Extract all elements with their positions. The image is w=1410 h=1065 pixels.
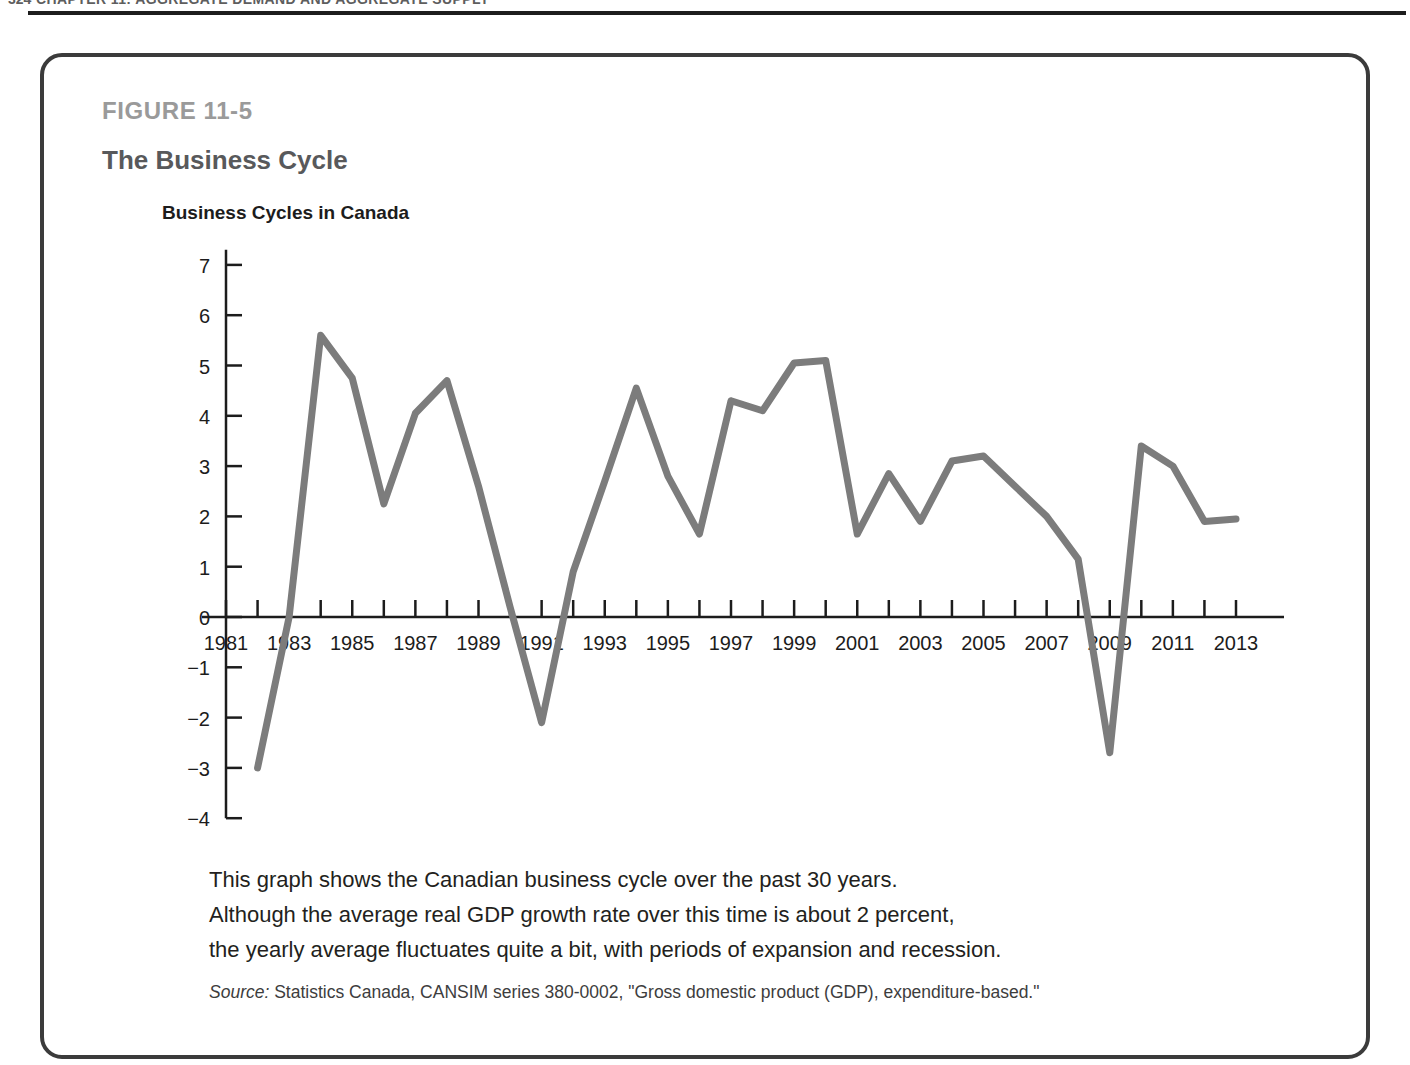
y-tick-label: 2 [199, 506, 210, 528]
x-tick-label: 1995 [646, 632, 691, 654]
x-tick-label: 1981 [204, 632, 249, 654]
x-tick-label: 2013 [1214, 632, 1259, 654]
chapter-running-head: CHAPTER 11: AGGREGATE DEMAND AND AGGREGA… [36, 0, 489, 7]
y-tick-label: 5 [199, 356, 210, 378]
figure-container: FIGURE 11-5 The Business Cycle Business … [40, 53, 1370, 1059]
gdp-growth-line [258, 335, 1236, 768]
y-tick-label: 3 [199, 456, 210, 478]
y-tick-label: 6 [199, 305, 210, 327]
figure-title: The Business Cycle [102, 145, 348, 176]
x-tick-label: 1989 [456, 632, 501, 654]
business-cycle-line-chart: 76543210−1−2−3−4198119831985198719891991… [44, 57, 1374, 857]
y-tick-label: −4 [187, 808, 210, 830]
y-tick-label: 4 [199, 406, 210, 428]
source-label: Source: [209, 982, 269, 1002]
figure-source-note: Source: Statistics Canada, CANSIM series… [209, 982, 1299, 1003]
y-tick-label: 1 [199, 557, 210, 579]
x-tick-label: 2001 [835, 632, 880, 654]
x-tick-label: 1991 [519, 632, 564, 654]
x-tick-label: 2009 [1088, 632, 1133, 654]
y-tick-label: 0 [199, 607, 210, 629]
x-tick-label: 1997 [709, 632, 754, 654]
page-folio-number: 324 [8, 0, 31, 7]
x-tick-label: 2005 [961, 632, 1006, 654]
chart-heading: Business Cycles in Canada [162, 202, 409, 224]
figure-caption: This graph shows the Canadian business c… [209, 862, 1269, 967]
source-text: Statistics Canada, CANSIM series 380-000… [269, 982, 1039, 1002]
y-tick-label: −1 [187, 657, 210, 679]
caption-line-2: Although the average real GDP growth rat… [209, 897, 1269, 932]
x-tick-label: 1983 [267, 632, 312, 654]
x-tick-label: 2011 [1151, 632, 1194, 654]
figure-number-label: FIGURE 11-5 [102, 97, 253, 125]
x-tick-label: 1999 [772, 632, 817, 654]
page-running-header: 324 CHAPTER 11: AGGREGATE DEMAND AND AGG… [0, 0, 1410, 26]
caption-line-1: This graph shows the Canadian business c… [209, 862, 1269, 897]
x-tick-label: 2003 [898, 632, 943, 654]
y-tick-label: 7 [199, 255, 210, 277]
x-tick-label: 1993 [583, 632, 628, 654]
y-tick-label: −3 [187, 758, 210, 780]
y-tick-label: −2 [187, 708, 210, 730]
x-tick-label: 2007 [1024, 632, 1069, 654]
header-rule [28, 11, 1406, 15]
x-tick-label: 1987 [393, 632, 438, 654]
x-tick-label: 1985 [330, 632, 375, 654]
caption-line-3: the yearly average fluctuates quite a bi… [209, 932, 1269, 967]
